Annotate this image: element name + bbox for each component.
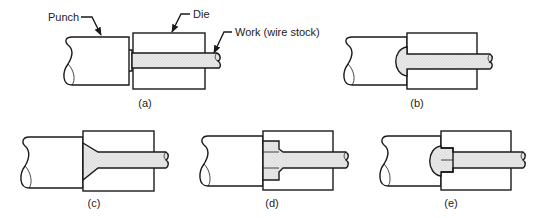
callout-punch: Punch — [48, 11, 101, 35]
caption-c: (c) — [88, 197, 101, 209]
die-label: Die — [193, 8, 210, 20]
callout-die: Die — [172, 8, 210, 32]
punch-d — [200, 136, 263, 186]
caption-b: (b) — [410, 97, 423, 109]
punch-c — [21, 137, 83, 188]
panel-c: (c) — [21, 131, 168, 209]
panel-b: (b) — [344, 33, 492, 109]
caption-e: (e) — [444, 197, 457, 209]
work-a — [132, 53, 220, 68]
panel-d: (d) — [200, 131, 348, 209]
work-label: Work (wire stock) — [235, 26, 320, 38]
heading-process-diagram: (a) Punch Die Work (wire stock) (b) (c) — [0, 0, 550, 218]
panel-a: (a) — [64, 33, 220, 109]
caption-d: (d) — [265, 197, 278, 209]
punch-a — [64, 37, 129, 85]
callout-work: Work (wire stock) — [214, 26, 320, 53]
caption-a: (a) — [138, 97, 151, 109]
panel-e: (e) — [380, 131, 525, 209]
punch-label: Punch — [48, 11, 79, 23]
